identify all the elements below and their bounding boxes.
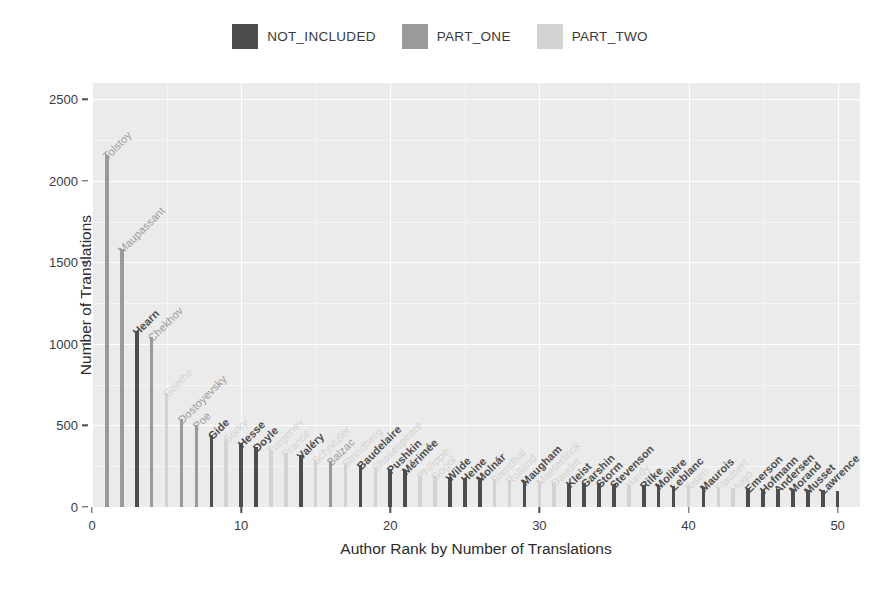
y-tick-label: 2500 — [49, 92, 78, 107]
x-tick-label: 20 — [383, 518, 397, 533]
y-tick-mark — [82, 425, 88, 426]
legend-entry-not-included: NOT_INCLUDED — [232, 24, 376, 49]
bar — [239, 443, 243, 507]
bar — [135, 331, 139, 507]
bar-label: Goethe — [161, 365, 195, 399]
x-tick-mark — [240, 507, 241, 513]
y-tick-label: 1500 — [49, 255, 78, 270]
x-axis: 01020304050 — [92, 507, 860, 537]
y-tick-mark — [82, 262, 88, 263]
chart-legend: NOT_INCLUDEDPART_ONEPART_TWO — [0, 24, 880, 49]
x-tick-mark — [390, 507, 391, 513]
bar — [210, 435, 214, 507]
legend-label: PART_ONE — [437, 29, 511, 44]
x-tick-mark — [688, 507, 689, 513]
legend-swatch-icon — [537, 24, 563, 49]
bar-series: TolstoyMaupassantHearnChekhovGoetheDosto… — [92, 83, 860, 507]
bar — [105, 155, 109, 507]
y-tick-label: 0 — [71, 500, 78, 515]
legend-entry-part-two: PART_TWO — [537, 24, 648, 49]
x-tick-label: 40 — [681, 518, 695, 533]
bar — [254, 447, 258, 507]
bar — [165, 393, 169, 507]
y-tick-label: 500 — [56, 418, 78, 433]
x-tick-label: 50 — [830, 518, 844, 533]
y-tick-mark — [82, 343, 88, 344]
bar — [269, 450, 273, 507]
legend-label: PART_TWO — [572, 29, 648, 44]
bar — [224, 439, 228, 507]
x-tick-mark — [539, 507, 540, 513]
y-axis: 05001000150020002500 — [0, 83, 92, 507]
plot-area: TolstoyMaupassantHearnChekhovGoetheDosto… — [92, 83, 860, 507]
x-tick-mark — [837, 507, 838, 513]
bar — [329, 461, 333, 507]
legend-label: NOT_INCLUDED — [267, 29, 376, 44]
bar — [150, 337, 154, 507]
bar-label: Tolstoy — [101, 129, 134, 162]
y-tick-mark — [82, 99, 88, 100]
bar-label: Maupassant — [116, 205, 168, 257]
x-tick-label: 30 — [532, 518, 546, 533]
x-tick-mark — [91, 507, 92, 513]
bar — [284, 453, 288, 507]
y-tick-mark — [82, 506, 88, 507]
y-tick-label: 1000 — [49, 336, 78, 351]
y-tick-label: 2000 — [49, 173, 78, 188]
bar — [836, 491, 840, 507]
x-axis-title: Author Rank by Number of Translations — [92, 540, 860, 558]
x-tick-label: 0 — [88, 518, 95, 533]
x-tick-label: 10 — [234, 518, 248, 533]
legend-entry-part-one: PART_ONE — [402, 24, 511, 49]
bar — [120, 249, 124, 507]
legend-swatch-icon — [402, 24, 428, 49]
y-tick-mark — [82, 180, 88, 181]
bar — [180, 419, 184, 507]
bar — [195, 425, 199, 507]
bar — [299, 455, 303, 507]
legend-swatch-icon — [232, 24, 258, 49]
